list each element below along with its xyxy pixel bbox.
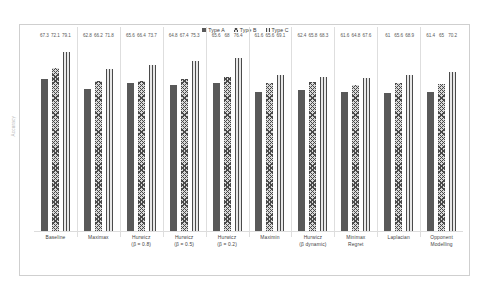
bar-value-label: 67.6 [362, 33, 371, 38]
category-label-line2: (β = 0.5) [164, 242, 205, 249]
bar[interactable] [363, 78, 370, 231]
bar-slot: 70.2 [449, 39, 456, 231]
bar-value-label: 67.4 [180, 33, 189, 38]
category-label: OpponentModelling [420, 235, 463, 269]
bar-slot: 68.3 [320, 39, 327, 231]
category-label-line1: Hurwicz [218, 235, 236, 240]
bar[interactable] [106, 69, 113, 231]
bar[interactable] [63, 52, 70, 231]
chart-plot-frame: Type AType BType C 67.372.179.162.866.27… [19, 24, 470, 276]
bar-value-label: 61 [385, 33, 390, 38]
bar-slot: 73.7 [149, 39, 156, 231]
bar-value-label: 73.7 [148, 33, 157, 38]
category-label-line2: (β = 0.8) [121, 242, 162, 249]
bar-value-label: 62.8 [83, 33, 92, 38]
bar-slot: 64.8 [170, 39, 177, 231]
bar[interactable] [438, 84, 445, 231]
bar[interactable] [138, 81, 145, 231]
bar-slot: 66.2 [95, 39, 102, 231]
bar-slot: 62.4 [298, 39, 305, 231]
bar[interactable] [192, 61, 199, 231]
bar[interactable] [213, 83, 220, 231]
bar[interactable] [224, 77, 231, 231]
bar-group: 62.866.271.8 [77, 39, 120, 231]
bar[interactable] [309, 82, 316, 231]
chart-figure: Accuracy Type AType BType C 67.372.179.1… [0, 0, 484, 303]
bar[interactable] [127, 83, 134, 231]
bar-slot: 71.8 [106, 39, 113, 231]
category-label-line1: Baseline [45, 235, 65, 240]
category-label-line1: Opponent [430, 235, 453, 240]
bar[interactable] [277, 75, 284, 231]
category-label: MinimaxRegret [334, 235, 377, 269]
bar-value-label: 61.6 [255, 33, 264, 38]
bar-slot: 67.3 [41, 39, 48, 231]
bar-value-label: 64.8 [169, 33, 178, 38]
bar-slot: 68.9 [406, 39, 413, 231]
category-label: Hurwicz(β = 0.2) [206, 235, 249, 269]
bar[interactable] [320, 77, 327, 231]
bar[interactable] [298, 90, 305, 231]
bar[interactable] [235, 58, 242, 231]
bar[interactable] [52, 68, 59, 231]
bar[interactable] [84, 89, 91, 231]
bar-slot: 61 [384, 39, 391, 231]
bar[interactable] [95, 81, 102, 231]
bar-value-label: 70.2 [448, 33, 457, 38]
bar-value-label: 76.4 [234, 33, 243, 38]
bar-value-label: 65.8 [309, 33, 318, 38]
bar[interactable] [266, 83, 273, 231]
bar[interactable] [449, 72, 456, 231]
bar[interactable] [352, 85, 359, 231]
bar-value-label: 66.2 [94, 33, 103, 38]
category-label-line1: Maximax [88, 235, 109, 240]
bar-group: 62.465.868.3 [291, 39, 334, 231]
bar-slot: 65.6 [127, 39, 134, 231]
category-label-line1: Hurwicz [175, 235, 193, 240]
bar-slot: 69.1 [277, 39, 284, 231]
bar-group: 61.46570.2 [420, 39, 463, 231]
category-label: Maximax [77, 235, 120, 269]
bar-group: 6165.668.9 [377, 39, 420, 231]
y-axis-title: Accuracy [11, 116, 16, 137]
bar-slot: 62.8 [84, 39, 91, 231]
category-label-line2: (β = 0.2) [207, 242, 248, 249]
bar-groups: 67.372.179.162.866.271.865.666.473.764.8… [34, 39, 463, 231]
bar-slot: 61.6 [341, 39, 348, 231]
bar-slot: 65.6 [266, 39, 273, 231]
category-axis: BaselineMaximaxHurwicz(β = 0.8)Hurwicz(β… [34, 231, 463, 269]
bar-value-label: 68 [225, 33, 230, 38]
category-label: Hurwicz(β dynamic) [291, 235, 334, 269]
bar[interactable] [41, 79, 48, 231]
bar[interactable] [427, 92, 434, 231]
bar[interactable] [149, 65, 156, 231]
bar-slot: 65.6 [213, 39, 220, 231]
bar[interactable] [384, 93, 391, 231]
bar[interactable] [341, 92, 348, 231]
category-label: Hurwicz(β = 0.8) [120, 235, 163, 269]
category-label: Baseline [34, 235, 77, 269]
bar-value-label: 72.1 [51, 33, 60, 38]
bar[interactable] [170, 85, 177, 231]
category-label-line1: Maximin [260, 235, 279, 240]
bar-value-label: 65 [439, 33, 444, 38]
bar-value-label: 68.9 [405, 33, 414, 38]
bar[interactable] [181, 79, 188, 231]
bar-slot: 65 [438, 39, 445, 231]
bar-group: 65.666.473.7 [120, 39, 163, 231]
bar-value-label: 65.6 [394, 33, 403, 38]
category-label: Laplacian [377, 235, 420, 269]
bar-value-label: 61.6 [340, 33, 349, 38]
bar-slot: 76.4 [235, 39, 242, 231]
bar[interactable] [395, 83, 402, 231]
bar-group: 67.372.179.1 [34, 39, 77, 231]
bar-value-label: 64.8 [351, 33, 360, 38]
bar[interactable] [255, 92, 262, 231]
bar-value-label: 65.6 [266, 33, 275, 38]
bar-group: 65.66876.4 [206, 39, 249, 231]
bar-value-label: 67.3 [40, 33, 49, 38]
bar[interactable] [406, 75, 413, 231]
bar-value-label: 71.8 [105, 33, 114, 38]
bar-slot: 61.6 [255, 39, 262, 231]
bar-value-label: 66.4 [137, 33, 146, 38]
